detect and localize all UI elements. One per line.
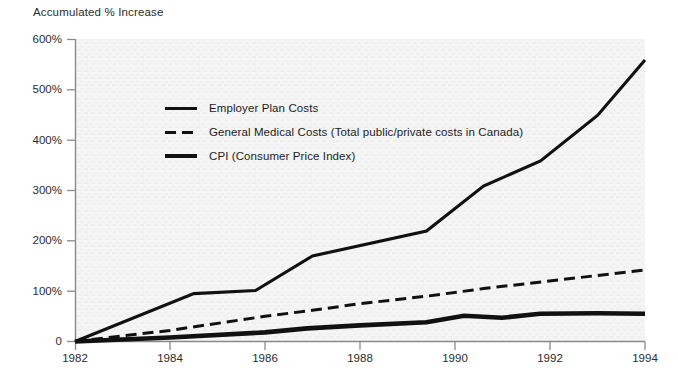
y-tick-label: 400%: [16, 134, 62, 146]
x-tick-label: 1990: [433, 352, 477, 364]
chart-container: Accumulated % Increase: [0, 0, 678, 371]
legend-line-dashed-icon: [165, 126, 197, 138]
legend-item-general-medical-costs: General Medical Costs (Total public/priv…: [165, 120, 625, 144]
x-tick-label: 1992: [528, 352, 572, 364]
y-tick-label: 300%: [16, 184, 62, 196]
legend-item-cpi: CPI (Consumer Price Index): [165, 144, 625, 168]
y-tick-label: 500%: [16, 83, 62, 95]
y-tick-label: 200%: [16, 234, 62, 246]
x-tick-label: 1988: [338, 352, 382, 364]
legend-line-thick-icon: [165, 150, 197, 162]
x-axis-ticks: [76, 342, 646, 351]
x-tick-label: 1984: [148, 352, 192, 364]
legend-item-label: Employer Plan Costs: [209, 102, 318, 114]
legend-line-solid-icon: [165, 102, 197, 114]
legend-item-label: General Medical Costs (Total public/priv…: [209, 126, 523, 138]
legend-item-label: CPI (Consumer Price Index): [209, 150, 355, 162]
y-axis-ticks: [67, 40, 75, 342]
x-tick-label: 1986: [243, 352, 287, 364]
y-tick-label: 0: [16, 335, 62, 347]
y-tick-label: 100%: [16, 285, 62, 297]
legend-item-employer-plan-costs: Employer Plan Costs: [165, 96, 625, 120]
chart-legend: Employer Plan Costs General Medical Cost…: [165, 96, 625, 168]
x-tick-label: 1982: [53, 352, 97, 364]
y-tick-label: 600%: [16, 33, 62, 45]
plot-background: [75, 39, 645, 341]
chart-plot-area: [0, 0, 678, 371]
x-tick-label: 1994: [623, 352, 667, 364]
